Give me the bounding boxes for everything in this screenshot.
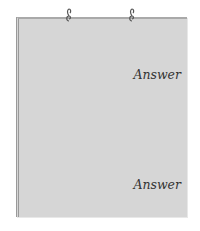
answer-label-2: Answer (133, 177, 181, 192)
binder-ring-icon (65, 7, 73, 23)
notecard: Answer Answer (16, 17, 187, 217)
answer-label-1: Answer (133, 67, 181, 82)
binder-ring-icon (128, 7, 136, 23)
